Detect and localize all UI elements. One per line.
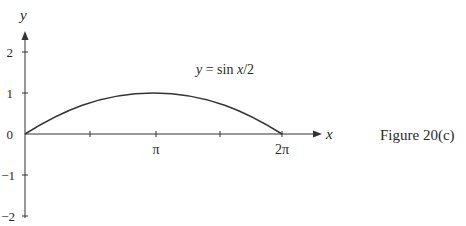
x-axis-label: x [325, 126, 333, 142]
y-axis-arrow-icon [22, 31, 29, 40]
y-axis-label: y [18, 7, 27, 23]
x-axis-arrow-icon [313, 131, 322, 138]
equation-tail: /2 [243, 62, 254, 77]
figure-caption: Figure 20(c) [380, 127, 455, 144]
y-tick-label-1: 1 [7, 86, 14, 101]
y-tick-label-neg2: −2 [1, 209, 15, 224]
y-tick-label-2: 2 [7, 45, 14, 60]
x-tick-label-pi: π [152, 142, 159, 157]
equation-mid: = sin [202, 62, 237, 77]
y-tick-label-0: 0 [7, 127, 14, 142]
chart-canvas: y x 2 1 0 −1 −2 π 2π y = sin x/2 Figure … [0, 0, 466, 226]
sine-curve [25, 93, 282, 134]
equation-label: y = sin x/2 [194, 62, 254, 77]
x-tick-label-2pi: 2π [275, 142, 289, 157]
y-tick-label-neg1: −1 [1, 168, 15, 183]
